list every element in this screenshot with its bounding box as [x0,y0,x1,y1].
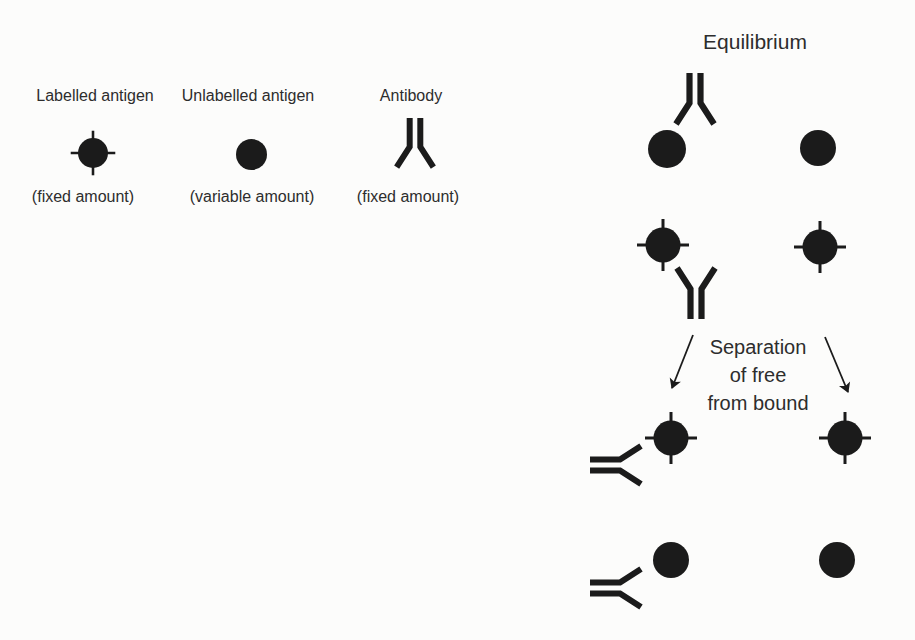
separation-label: Separation of free from bound [682,333,834,417]
legend-caption-labelled-antigen: (fixed amount) [8,188,158,206]
free-unlabelled-antigen-icon [819,542,855,578]
legend-caption-antibody: (fixed amount) [333,188,483,206]
separation-label-line-1: Separation [682,333,834,361]
antibody-icon [586,566,648,610]
bound-unlabelled-antigen-icon [653,542,689,578]
legend-label-antibody: Antibody [336,87,486,105]
antibody-icon [674,263,718,321]
antibody-icon [586,443,648,487]
antibody-icon [393,116,437,172]
unlabelled-antigen-icon [236,139,267,170]
free-unlabelled-antigen-icon [800,130,836,166]
unlabelled-antigen-icon [648,130,686,168]
free-labelled-antigen-icon [817,410,873,466]
separation-label-line-2: of free [682,361,834,389]
bound-labelled-antigen-icon [643,410,699,466]
equilibrium-title: Equilibrium [640,30,870,54]
legend-label-unlabelled-antigen: Unlabelled antigen [173,87,323,105]
antibody-icon [673,71,717,129]
figure-canvas: Labelled antigen (fixed amount) Unlabell… [0,0,915,640]
free-labelled-antigen-icon [792,219,848,275]
labelled-antigen-icon [69,129,117,177]
legend-caption-unlabelled-antigen: (variable amount) [177,188,327,206]
separation-label-line-3: from bound [682,389,834,417]
legend-label-labelled-antigen: Labelled antigen [20,87,170,105]
